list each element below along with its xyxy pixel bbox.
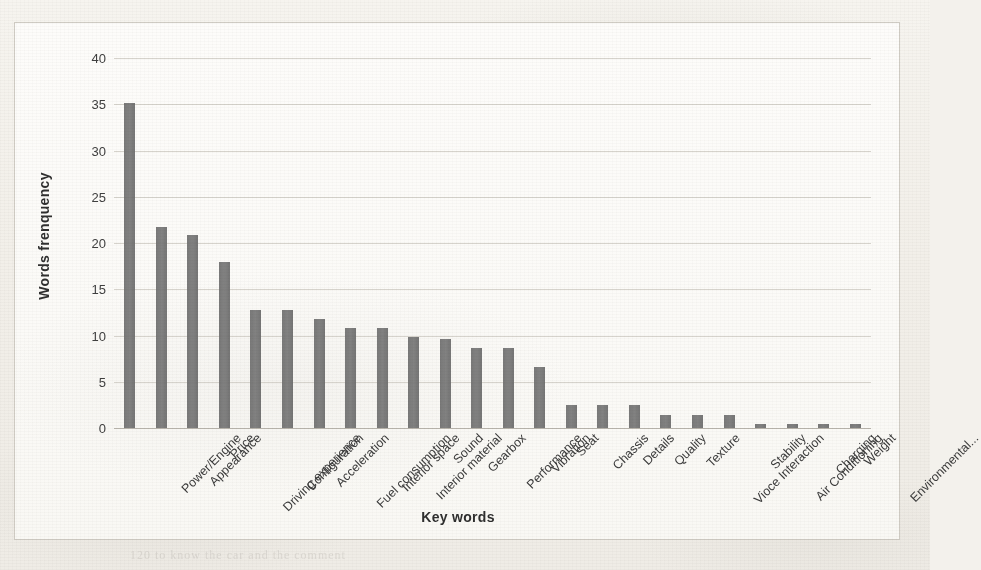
bar [566, 405, 577, 428]
bar [597, 405, 608, 428]
plot-area [114, 58, 871, 428]
y-axis-title: Words frenquency [36, 56, 52, 416]
axis-baseline [114, 428, 871, 429]
bar [787, 424, 798, 428]
y-tick-label: 25 [92, 189, 106, 204]
bar [724, 415, 735, 428]
bar [440, 339, 451, 428]
bar [818, 424, 829, 428]
bar [755, 424, 766, 428]
x-tick-label: Environmental... [908, 431, 981, 505]
bar [503, 348, 514, 428]
bar [534, 367, 545, 428]
bar [408, 337, 419, 428]
x-tick-label: Texture [704, 431, 743, 470]
y-tick-label: 0 [99, 421, 106, 436]
bar [187, 235, 198, 428]
bar [345, 328, 356, 428]
y-tick-label: 10 [92, 328, 106, 343]
bar [156, 227, 167, 428]
y-tick-label: 35 [92, 97, 106, 112]
bar [314, 319, 325, 428]
bar [471, 348, 482, 428]
bar [692, 415, 703, 428]
x-axis-title: Key words [15, 509, 901, 525]
y-axis-tick-labels: 0510152025303540 [73, 58, 106, 428]
bar [850, 424, 861, 428]
bar [660, 415, 671, 428]
bar [377, 328, 388, 428]
y-tick-label: 15 [92, 282, 106, 297]
bar [250, 310, 261, 428]
bar [629, 405, 640, 428]
y-tick-label: 20 [92, 236, 106, 251]
y-tick-label: 30 [92, 143, 106, 158]
bar [219, 262, 230, 428]
bar [282, 310, 293, 428]
x-tick-label: Quality [672, 431, 709, 468]
y-tick-label: 40 [92, 51, 106, 66]
bleed-text: 120 to know the car and the comment [130, 548, 346, 563]
bar [124, 103, 135, 428]
chart-frame: Words frenquency 0510152025303540 Power/… [14, 22, 900, 540]
y-tick-label: 5 [99, 374, 106, 389]
bar-series [114, 58, 871, 428]
